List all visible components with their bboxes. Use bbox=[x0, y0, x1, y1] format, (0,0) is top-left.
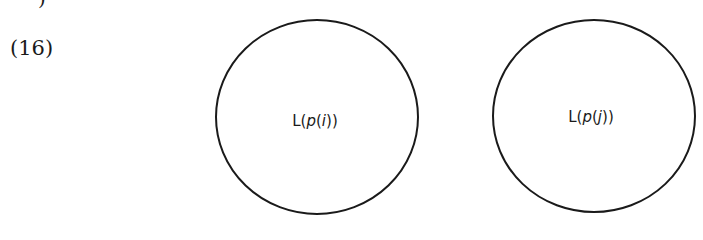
label-l-p-i: L(p(i)) bbox=[292, 112, 338, 130]
label-l-p-j: L(p(j)) bbox=[568, 108, 614, 126]
